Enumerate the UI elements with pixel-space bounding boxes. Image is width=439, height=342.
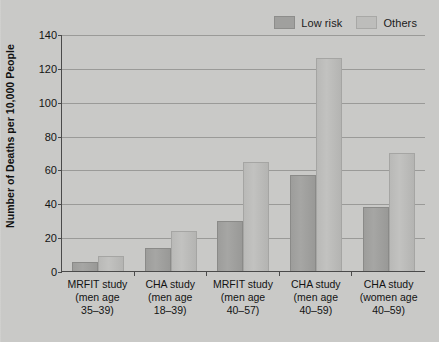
x-axis-tick-mark [206,271,207,276]
legend-item-others: Others [356,16,417,29]
x-axis-label-line: 40–59) [352,304,425,317]
y-axis-title-text: Number of Deaths per 10,000 People [4,44,16,228]
y-axis-tick-label: 20 [45,232,57,244]
x-axis-labels: MRFIT study(men age35–39)CHA study(men a… [61,278,425,317]
x-axis-label-line: (men age [279,291,352,304]
legend-label-low-risk: Low risk [301,17,342,29]
x-axis-label: MRFIT study(men age40–57) [207,278,280,317]
x-axis-label: CHA study(women age40–59) [352,278,425,317]
x-axis-label-line: (men age [61,291,134,304]
legend-item-low-risk: Low risk [274,16,342,29]
y-axis-tick-label: 40 [45,198,57,210]
bar-others [98,256,124,271]
y-axis-tick-label: 120 [39,63,57,75]
x-axis-label-line: 18–39) [134,304,207,317]
chart-legend: Low risk Others [0,16,429,29]
legend-swatch-others [356,16,377,29]
bar-low-risk [145,248,171,271]
legend-label-others: Others [383,17,417,29]
chart-figure: Low risk Others Number of Deaths per 10,… [0,0,439,342]
x-axis-label-line: (men age [207,291,280,304]
x-axis-label-line: 35–39) [61,304,134,317]
y-axis-tick-label: 60 [45,164,57,176]
x-axis-label-line: MRFIT study [207,278,280,291]
x-axis-label-line: 40–57) [207,304,280,317]
x-axis-label-line: CHA study [352,278,425,291]
x-axis-label-line: MRFIT study [61,278,134,291]
bar-others [171,231,197,271]
x-axis-tick-mark [351,271,352,276]
bar-others [316,58,342,271]
x-axis-label-line: CHA study [279,278,352,291]
x-axis-label-line: 40–59) [279,304,352,317]
bar-group [352,35,425,271]
y-axis-tick-mark [58,272,62,273]
y-axis-tick-label: 140 [39,29,57,41]
x-axis-tick-mark [134,271,135,276]
y-axis-tick-label: 80 [45,131,57,143]
x-axis-tick-mark [279,271,280,276]
bar-low-risk [290,175,316,271]
bar-group [207,35,280,271]
bar-group [280,35,353,271]
x-axis-label: CHA study(men age18–39) [134,278,207,317]
bar-others [389,153,415,271]
plot-area: 020406080100120140 [61,35,425,272]
x-axis-label-line: CHA study [134,278,207,291]
bar-low-risk [217,221,243,271]
x-axis-label: CHA study(men age40–59) [279,278,352,317]
bar-group [135,35,208,271]
y-axis-title: Number of Deaths per 10,000 People [0,0,22,272]
y-axis-tick-label: 100 [39,97,57,109]
x-axis-label: MRFIT study(men age35–39) [61,278,134,317]
plot-inner: 020406080100120140 [62,35,425,271]
bar-groups [62,35,425,271]
x-axis-label-line: (men age [134,291,207,304]
bar-others [243,162,269,271]
x-axis-label-line: (women age [352,291,425,304]
y-axis-tick-label: 0 [51,266,57,278]
bar-group [62,35,135,271]
bar-low-risk [72,262,98,271]
legend-swatch-low-risk [274,16,295,29]
bar-low-risk [363,207,389,271]
